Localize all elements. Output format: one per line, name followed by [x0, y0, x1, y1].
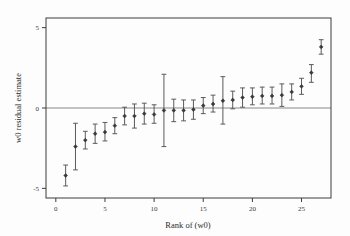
- data-point: [319, 45, 323, 49]
- y-axis-title: w0 residual estimate: [13, 73, 23, 143]
- y-axis-ticks: 50-5: [33, 24, 46, 193]
- data-point: [300, 84, 304, 88]
- data-point: [83, 138, 87, 142]
- data-point: [133, 114, 137, 118]
- x-tick-label: 15: [200, 205, 208, 213]
- x-axis-title: Rank of (w0): [165, 220, 210, 230]
- y-tick-label: -5: [33, 185, 39, 193]
- data-point: [201, 104, 205, 108]
- x-tick-label: 0: [54, 205, 58, 213]
- data-point: [142, 112, 146, 116]
- data-point: [113, 124, 117, 128]
- error-bars-group: [63, 40, 323, 186]
- data-point: [250, 95, 254, 99]
- x-tick-label: 20: [249, 205, 257, 213]
- data-point: [221, 99, 225, 103]
- chart-figure: 0510152025 50-5 Rank of (w0) w0 residual…: [0, 0, 350, 236]
- data-point: [211, 102, 215, 106]
- data-point: [162, 109, 166, 113]
- data-point: [123, 114, 127, 118]
- x-axis-ticks: 0510152025: [54, 198, 305, 213]
- data-point: [172, 109, 176, 113]
- data-point: [260, 94, 264, 98]
- y-tick-label: 0: [36, 105, 40, 113]
- data-point: [93, 132, 97, 136]
- data-point: [182, 109, 186, 113]
- data-point: [270, 94, 274, 98]
- data-points-group: [64, 45, 323, 177]
- data-point: [152, 113, 156, 117]
- y-tick-label: 5: [36, 24, 40, 32]
- x-tick-label: 10: [151, 205, 159, 213]
- data-point: [280, 93, 284, 97]
- x-tick-label: 25: [298, 205, 306, 213]
- data-point: [103, 130, 107, 134]
- data-point: [241, 96, 245, 100]
- data-point: [290, 90, 294, 94]
- data-point: [231, 98, 235, 102]
- caterpillar-plot: 0510152025 50-5 Rank of (w0) w0 residual…: [0, 0, 350, 236]
- data-point: [64, 174, 68, 178]
- data-point: [309, 71, 313, 75]
- x-tick-label: 5: [103, 205, 107, 213]
- data-point: [74, 145, 78, 149]
